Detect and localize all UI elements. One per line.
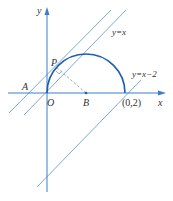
x-axis-label: x bbox=[157, 97, 163, 108]
point-c-label: (0,2) bbox=[122, 97, 141, 109]
line2-label: y=x−2 bbox=[131, 69, 157, 79]
line1-label: y=x bbox=[111, 27, 126, 37]
y-axis-arrow-icon bbox=[45, 7, 50, 15]
point-b-label: B bbox=[83, 97, 89, 108]
origin-label: O bbox=[47, 97, 54, 108]
right-angle-marker bbox=[56, 71, 62, 74]
dashed-radius-bp bbox=[56, 67, 86, 93]
coordinate-diagram: y x O A B P (0,2) y=x y=x−2 bbox=[0, 0, 173, 201]
tangent-line-upper bbox=[9, 10, 111, 113]
y-axis-label: y bbox=[36, 5, 42, 16]
point-p-label: P bbox=[50, 57, 57, 68]
point-a-label: A bbox=[21, 81, 29, 92]
point-b bbox=[85, 92, 88, 95]
x-axis-arrow-icon bbox=[158, 91, 166, 96]
